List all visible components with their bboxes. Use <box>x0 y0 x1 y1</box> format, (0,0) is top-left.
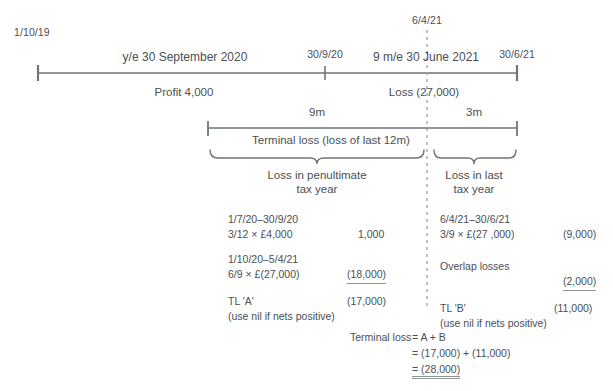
calc-left-row-1-line1: 1/7/20–30/9/20 <box>228 212 418 227</box>
calc-left-total-label: TL 'A' <box>228 294 418 309</box>
calc-left-row-2-line2: 6/9 × £(27,000) <box>228 267 418 282</box>
calc-right-row-2-value: (2,000) <box>563 274 596 291</box>
brace-right-caption: Loss in last tax year <box>445 168 503 197</box>
brace-right-line1: Loss in last <box>445 168 503 182</box>
marker-date-label: 6/4/21 <box>412 14 442 27</box>
calc-left-row-2-value: (18,000) <box>347 267 386 284</box>
calc-right-column: 6/4/21–30/6/21 3/9 × £(27 ,000) (9,000) … <box>440 212 613 331</box>
calc-left-row-1: 1/7/20–30/9/20 3/12 × £4,000 1,000 <box>228 212 418 244</box>
result-right-label: Loss (27,000) <box>389 85 459 99</box>
period-right-label: 9 m/e 30 June 2021 <box>373 50 479 65</box>
calc-left-row-2: 1/10/20–5/4/21 6/9 × £(27,000) (18,000) <box>228 252 418 286</box>
brace-left-caption: Loss in penultimate tax year <box>267 168 366 197</box>
summary-lines: = A + B = (17,000) + (11,000) = (28,000) <box>412 330 510 377</box>
calc-left-total-value: (17,000) <box>347 294 386 309</box>
calc-right-total: TL 'B' (11,000) (use nil if nets positiv… <box>440 301 613 331</box>
calc-right-total-value: (11,000) <box>554 301 592 316</box>
timeline-end-date: 30/6/21 <box>499 48 535 61</box>
brace-left-line1: Loss in penultimate <box>267 168 366 182</box>
span-right-months: 3m <box>466 105 482 119</box>
brace-left <box>210 150 424 164</box>
calc-left-total: TL 'A' (17,000) (use nil if nets positiv… <box>228 294 418 324</box>
calc-left-note: (use nil if nets positive) <box>228 309 418 324</box>
brace-right-line2: tax year <box>445 182 503 196</box>
calc-right-row-2: Overlap losses (2,000) <box>440 259 613 293</box>
timeline-mid-date: 30/9/20 <box>307 48 343 61</box>
calc-right-row-1: 6/4/21–30/6/21 3/9 × £(27 ,000) (9,000) <box>440 212 613 244</box>
summary-total: = (28,000) <box>412 363 460 377</box>
brace-left-line2: tax year <box>267 182 366 196</box>
terminal-loss-diagram: 1/10/19 30/9/20 30/6/21 6/4/21 y/e 30 Se… <box>0 0 613 391</box>
calc-right-row-2-line2: Overlap losses <box>440 259 613 274</box>
result-left-label: Profit 4,000 <box>155 85 214 99</box>
summary-line-1: = A + B <box>412 330 510 346</box>
summary-line-2: = (17,000) + (11,000) <box>412 346 510 362</box>
summary-label: Terminal loss <box>350 330 411 346</box>
calc-left-row-2-line1: 1/10/20–5/4/21 <box>228 252 418 267</box>
period-left-label: y/e 30 September 2020 <box>123 50 248 65</box>
calc-right-row-1-line1: 6/4/21–30/6/21 <box>440 212 613 227</box>
brace-right <box>434 150 516 164</box>
calc-right-row-1-value: (9,000) <box>563 227 596 242</box>
timeline-start-date: 1/10/19 <box>14 26 50 39</box>
span-left-months: 9m <box>309 105 325 119</box>
calc-left-row-1-value: 1,000 <box>358 227 384 242</box>
summary-line-3: = (28,000) <box>412 362 510 378</box>
calc-left-column: 1/7/20–30/9/20 3/12 × £4,000 1,000 1/10/… <box>228 212 418 324</box>
terminal-loss-span-label: Terminal loss (loss of last 12m) <box>252 133 410 147</box>
calc-left-row-1-line2: 3/12 × £4,000 <box>228 227 418 242</box>
